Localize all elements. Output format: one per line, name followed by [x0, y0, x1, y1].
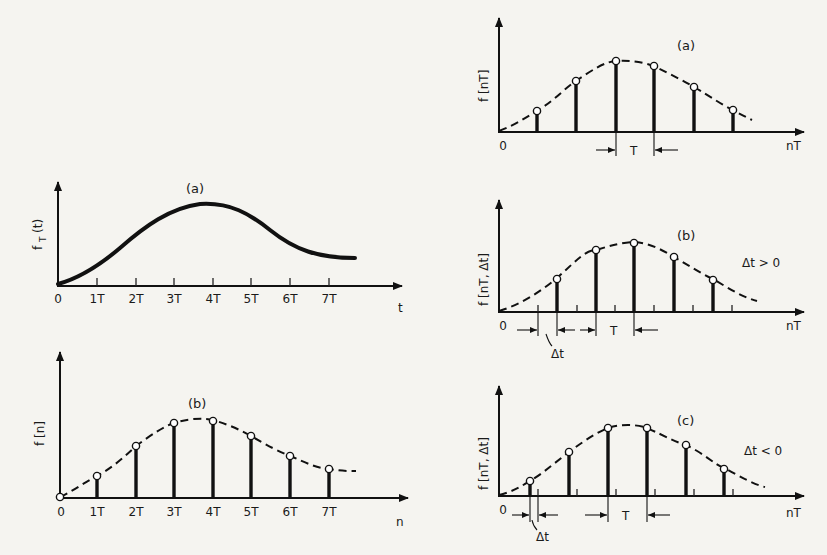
y-axis-label: f [n] [33, 421, 47, 446]
sample-points [526, 424, 727, 484]
sample-points [533, 57, 736, 114]
panel-right-a: (a) 0 nT f [nT] T [477, 18, 804, 158]
sample-stems [557, 243, 713, 312]
condition-label: Δt < 0 [744, 444, 782, 458]
delta-annotation: Δt [517, 312, 575, 361]
svg-text:5T: 5T [244, 292, 260, 306]
spacing-annotation: T [580, 312, 658, 338]
svg-text:T: T [621, 509, 630, 523]
svg-text:4T: 4T [206, 292, 222, 306]
svg-text:6T: 6T [283, 292, 299, 306]
envelope-curve [499, 242, 757, 311]
delta-annotation: Δt [512, 496, 558, 544]
svg-text:5T: 5T [244, 505, 260, 519]
svg-text:1T: 1T [90, 292, 106, 306]
continuous-curve [58, 204, 355, 284]
svg-text:f: f [31, 245, 45, 250]
panel-label: (c) [677, 413, 694, 428]
panel-left-b: (b) 0 1T 2T 3T 4T 5T 6T 7T n f [n] [33, 352, 408, 529]
panel-label: (a) [186, 181, 204, 196]
panel-right-b: (b) Δt > 0 0 nT f [nT, Δt] Δt T [477, 200, 804, 361]
panel-label: (b) [677, 228, 695, 243]
x-axis-label: n [396, 515, 404, 529]
tick-labels: 1T 2T 3T 4T 5T 6T 7T [90, 505, 338, 519]
panel-right-c: (c) Δt < 0 0 nT f [nT, Δt] Δt T [477, 386, 804, 544]
sample-stems [537, 61, 733, 132]
tick-labels: 1T 2T 3T 4T 5T 6T 7T [90, 292, 338, 306]
svg-text:Δt: Δt [551, 347, 564, 361]
svg-text:(t): (t) [31, 219, 45, 233]
x-axis-label: nT [786, 139, 802, 153]
y-axis-label: f [nT] [477, 70, 491, 102]
spacing-annotation: T [585, 496, 670, 523]
figure-svg: (a) 0 1T 2T 3T 4T 5T 6T 7T t f T (t) [0, 0, 827, 555]
panel-label: (b) [188, 396, 206, 411]
x-axis-label: nT [786, 506, 802, 520]
svg-text:4T: 4T [206, 505, 222, 519]
envelope-curve [60, 419, 356, 497]
svg-text:3T: 3T [167, 505, 183, 519]
condition-label: Δt > 0 [742, 256, 780, 270]
svg-text:7T: 7T [322, 292, 338, 306]
y-axis-label: f [nT, Δt] [477, 253, 491, 306]
origin-label: 0 [499, 139, 507, 153]
svg-text:T: T [609, 324, 618, 338]
origin-label: 0 [499, 503, 507, 517]
origin-label: 0 [499, 319, 507, 333]
sample-stems [97, 421, 329, 498]
origin-label: 0 [57, 505, 65, 519]
svg-text:Δt: Δt [536, 530, 549, 544]
panel-label: (a) [677, 38, 695, 53]
svg-text:3T: 3T [167, 292, 183, 306]
svg-text:T: T [629, 144, 638, 158]
x-axis-label: nT [786, 319, 802, 333]
y-axis-label: f [nT, Δt] [477, 437, 491, 490]
x-ticks [97, 278, 329, 286]
figure-canvas: (a) 0 1T 2T 3T 4T 5T 6T 7T t f T (t) [0, 0, 827, 555]
svg-text:2T: 2T [129, 292, 145, 306]
x-axis-label: t [398, 301, 403, 315]
grid-ticks [538, 489, 733, 496]
sample-stems [530, 428, 724, 496]
svg-text:7T: 7T [322, 505, 338, 519]
svg-text:1T: 1T [90, 505, 106, 519]
spacing-annotation: T [596, 132, 678, 158]
y-axis-label: f T (t) [31, 219, 48, 250]
panel-left-a: (a) 0 1T 2T 3T 4T 5T 6T 7T t f T (t) [31, 181, 403, 315]
svg-text:6T: 6T [283, 505, 299, 519]
svg-text:T: T [38, 236, 48, 243]
svg-text:2T: 2T [129, 505, 145, 519]
origin-label: 0 [54, 292, 62, 306]
